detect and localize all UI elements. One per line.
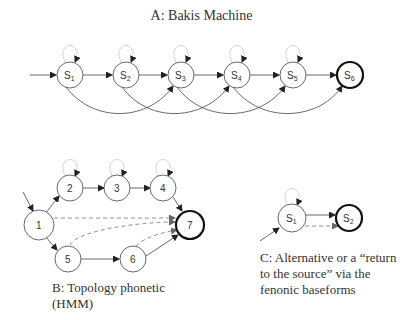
diagram-c-caption: C: Alternative or a “return to the sourc… (260, 250, 396, 298)
bakis-machine (30, 46, 363, 114)
svg-text:7: 7 (187, 220, 193, 231)
svg-text:3: 3 (114, 183, 120, 194)
phonetic-topology (23, 160, 204, 273)
svg-text:2: 2 (67, 183, 73, 194)
caption-line: fenonic baseforms (260, 282, 396, 298)
diagram-b-caption: B: Topology phonetic (HMM) (52, 280, 165, 312)
caption-line: C: Alternative or a “return (260, 250, 396, 266)
svg-text:1: 1 (36, 220, 42, 231)
svg-text:4: 4 (160, 183, 166, 194)
caption-line: B: Topology phonetic (52, 280, 165, 296)
bakis-node-labels: S1 S2 S3 S4 S5 S6 (64, 70, 355, 82)
caption-line: (HMM) (52, 296, 165, 312)
diagram-canvas: A: Bakis Machine (0, 0, 403, 320)
svg-text:5: 5 (65, 254, 71, 265)
caption-line: to the source” via the (260, 266, 396, 282)
svg-text:6: 6 (130, 254, 136, 265)
